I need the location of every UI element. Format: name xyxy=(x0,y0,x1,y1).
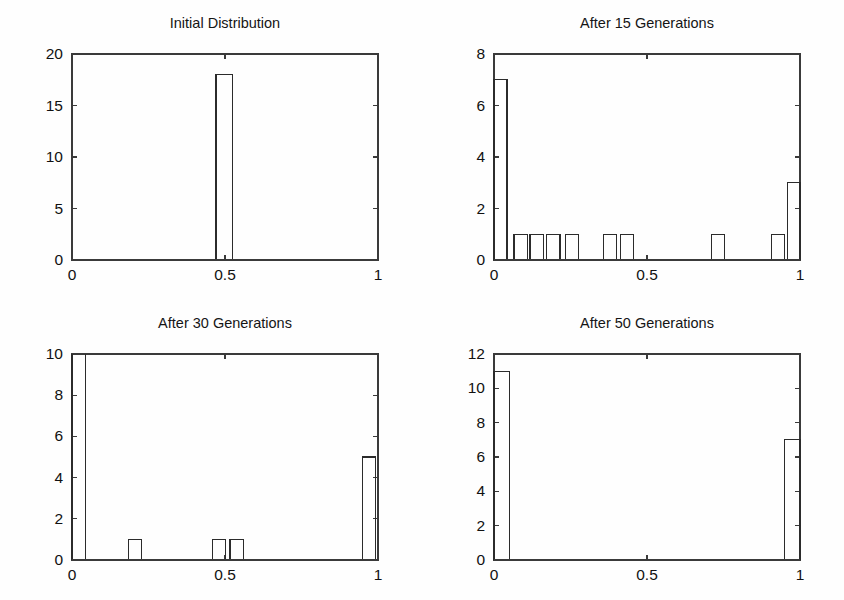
subplot-svg-3: After 50 Generations02468101200.51 xyxy=(422,300,844,600)
y-tick-label: 4 xyxy=(476,148,485,165)
x-tick-label: 0 xyxy=(68,266,77,283)
y-tick-label: 0 xyxy=(54,551,63,568)
y-tick-label: 6 xyxy=(54,427,63,444)
y-tick-label: 12 xyxy=(468,345,485,362)
y-tick-label: 4 xyxy=(476,482,485,499)
histogram-bar xyxy=(566,234,579,260)
y-tick-label: 10 xyxy=(468,379,486,396)
x-tick-label: 1 xyxy=(374,266,383,283)
x-tick-label: 0 xyxy=(490,566,499,583)
histogram-figure: Initial Distribution0510152000.51 After … xyxy=(0,0,844,600)
x-tick-label: 0.5 xyxy=(636,266,658,283)
histogram-bar xyxy=(620,234,633,260)
subplot-title: Initial Distribution xyxy=(170,15,280,31)
histogram-bar xyxy=(711,234,724,260)
y-tick-label: 4 xyxy=(54,469,63,486)
histogram-bar xyxy=(128,539,141,560)
y-tick-label: 10 xyxy=(46,345,64,362)
bars-group xyxy=(494,80,800,260)
y-tick-label: 2 xyxy=(476,200,485,217)
x-tick-label: 0 xyxy=(490,266,499,283)
x-tick-label: 1 xyxy=(796,266,805,283)
histogram-bar xyxy=(213,539,226,560)
subplot-after-15-generations: After 15 Generations0246800.51 xyxy=(422,0,844,300)
histogram-bar xyxy=(771,234,784,260)
y-tick-label: 6 xyxy=(476,448,485,465)
histogram-bar xyxy=(363,457,376,560)
y-tick-label: 20 xyxy=(46,45,64,62)
y-tick-label: 0 xyxy=(54,251,63,268)
x-tick-label: 0.5 xyxy=(214,566,236,583)
x-tick-label: 0 xyxy=(68,566,77,583)
axes-frame xyxy=(72,354,378,560)
histogram-bar-clipped xyxy=(72,354,86,560)
histogram-bar xyxy=(604,234,617,260)
histogram-bar xyxy=(230,539,243,560)
subplot-after-30-generations: After 30 Generations024681000.51 xyxy=(0,300,422,600)
x-tick-label: 0.5 xyxy=(214,266,236,283)
y-tick-label: 10 xyxy=(46,148,64,165)
x-tick-label: 1 xyxy=(374,566,383,583)
histogram-bar xyxy=(530,234,543,260)
histogram-bar xyxy=(494,80,507,260)
axes-frame xyxy=(494,54,800,260)
histogram-bar xyxy=(514,234,527,260)
y-tick-label: 8 xyxy=(476,414,485,431)
subplot-initial-distribution: Initial Distribution0510152000.51 xyxy=(0,0,422,300)
bars-group xyxy=(216,75,232,260)
histogram-bar xyxy=(785,440,800,560)
y-tick-label: 2 xyxy=(476,517,485,534)
y-tick-label: 8 xyxy=(54,386,63,403)
y-tick-label: 6 xyxy=(476,97,485,114)
x-tick-label: 0.5 xyxy=(636,566,658,583)
axes-frame xyxy=(494,354,800,560)
subplot-svg-2: After 30 Generations024681000.51 xyxy=(0,300,422,600)
subplot-svg-0: Initial Distribution0510152000.51 xyxy=(0,0,422,300)
histogram-bar xyxy=(547,234,560,260)
subplot-after-50-generations: After 50 Generations02468101200.51 xyxy=(422,300,844,600)
y-tick-label: 8 xyxy=(476,45,485,62)
bars-group xyxy=(72,354,376,560)
histogram-bar xyxy=(494,371,509,560)
histogram-bar xyxy=(787,183,800,260)
bars-group xyxy=(494,371,800,560)
subplot-title: After 50 Generations xyxy=(580,315,714,331)
y-tick-label: 0 xyxy=(476,251,485,268)
histogram-bar xyxy=(216,75,232,260)
x-tick-label: 1 xyxy=(796,566,805,583)
y-tick-label: 2 xyxy=(54,510,63,527)
y-tick-label: 5 xyxy=(54,200,63,217)
subplot-svg-1: After 15 Generations0246800.51 xyxy=(422,0,844,300)
subplot-title: After 15 Generations xyxy=(580,15,714,31)
subplot-title: After 30 Generations xyxy=(158,315,292,331)
y-tick-label: 15 xyxy=(46,97,63,114)
y-tick-label: 0 xyxy=(476,551,485,568)
axes-frame xyxy=(72,54,378,260)
